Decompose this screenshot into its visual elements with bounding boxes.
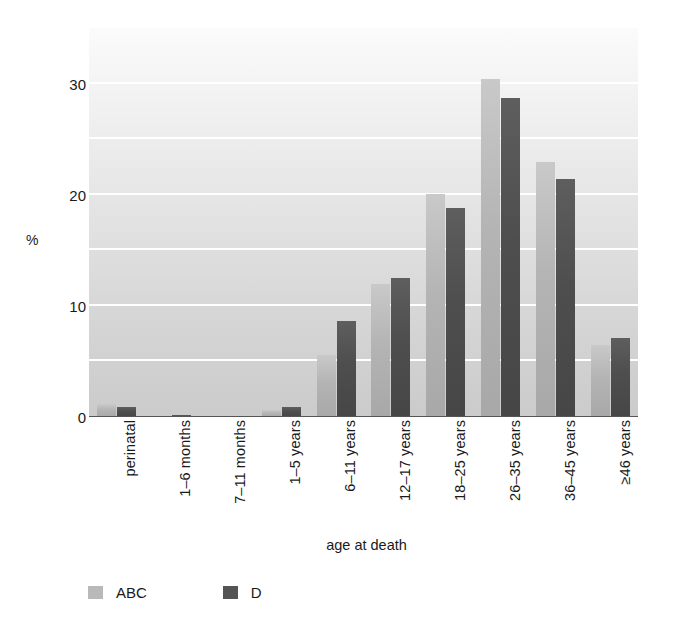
y-tick-label: 0 [52, 409, 86, 426]
x-tick-label: 1–5 years [287, 420, 303, 550]
legend-label: ABC [116, 584, 147, 601]
bar-group [536, 162, 575, 417]
bar-abc[interactable] [536, 162, 555, 417]
chart-legend: ABCD [88, 584, 262, 601]
bar-d[interactable] [501, 98, 520, 417]
x-axis-label: age at death [0, 537, 681, 553]
y-tick-label: 30 [52, 75, 86, 92]
x-tick-label: 1–6 months [177, 420, 193, 550]
bar-d[interactable] [337, 321, 356, 417]
x-tick-label: 26–35 years [507, 420, 523, 550]
legend-item-d[interactable]: D [223, 584, 262, 601]
bar-abc[interactable] [591, 345, 610, 417]
bar-group [591, 338, 630, 417]
bar-abc[interactable] [97, 404, 116, 417]
plot-area [89, 28, 638, 417]
x-axis-line [89, 416, 638, 417]
x-tick-label: 12–17 years [397, 420, 413, 550]
y-tick-label: 20 [52, 186, 86, 203]
legend-swatch-abc-icon [88, 586, 103, 599]
x-tick-label: 18–25 years [452, 420, 468, 550]
x-tick-label: perinatal [122, 420, 138, 550]
x-tick-label: 7–11 months [232, 420, 248, 550]
bar-abc[interactable] [317, 355, 336, 417]
bar-abc[interactable] [426, 194, 445, 417]
bar-group [97, 404, 136, 417]
bar-d[interactable] [446, 208, 465, 417]
legend-swatch-d-icon [223, 586, 238, 599]
bar-group [371, 278, 410, 417]
y-tick-label: 10 [52, 297, 86, 314]
x-tick-label: 36–45 years [562, 420, 578, 550]
bar-d[interactable] [391, 278, 410, 417]
bar-abc[interactable] [371, 284, 390, 417]
y-axis-label: % [26, 232, 39, 248]
legend-item-abc[interactable]: ABC [88, 584, 147, 601]
x-axis-label-text: age at death [274, 537, 407, 553]
bar-group [426, 194, 465, 417]
bar-abc[interactable] [481, 79, 500, 417]
legend-label: D [251, 584, 262, 601]
bar-group [481, 79, 520, 417]
bar-groups [89, 28, 638, 417]
bar-group [317, 321, 356, 417]
x-tick-label: 6–11 years [342, 420, 358, 550]
bar-d[interactable] [611, 338, 630, 417]
bar-chart-figure: % 0102030 perinatal1–6 months7–11 months… [0, 0, 681, 623]
bar-d[interactable] [556, 179, 575, 417]
y-axis-tick-labels: 0102030 [48, 0, 86, 623]
x-axis-tick-labels: perinatal1–6 months7–11 months1–5 years6… [89, 420, 638, 530]
x-tick-label: ≥46 years [617, 420, 633, 550]
